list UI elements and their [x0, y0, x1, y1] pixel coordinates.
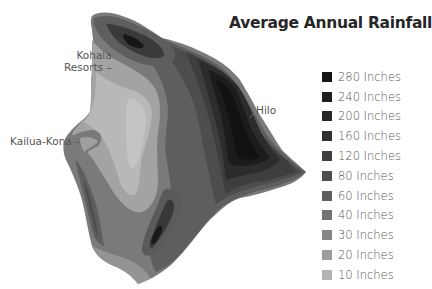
legend-item-30: 30 Inches	[322, 225, 401, 245]
legend-swatch	[322, 210, 332, 220]
legend-item-20: 20 Inches	[322, 245, 401, 265]
legend-label: 30 Inches	[338, 228, 394, 242]
legend-label: 200 Inches	[338, 109, 401, 123]
legend-label: 280 Inches	[338, 70, 401, 84]
legend-item-10: 10 Inches	[322, 265, 401, 285]
legend-swatch	[322, 230, 332, 240]
legend-item-120: 120 Inches	[322, 146, 401, 166]
legend-item-160: 160 Inches	[322, 126, 401, 146]
legend-label: 20 Inches	[338, 248, 394, 262]
legend-label: 80 Inches	[338, 169, 394, 183]
legend-swatch	[322, 92, 332, 102]
legend-swatch	[322, 250, 332, 260]
legend: 280 Inches 240 Inches 200 Inches 160 Inc…	[322, 67, 401, 285]
legend-label: 160 Inches	[338, 129, 401, 143]
legend-swatch	[322, 72, 332, 82]
legend-swatch	[322, 111, 332, 121]
legend-item-60: 60 Inches	[322, 186, 401, 206]
legend-label: 40 Inches	[338, 208, 394, 222]
legend-item-200: 200 Inches	[322, 107, 401, 127]
legend-label: 60 Inches	[338, 189, 394, 203]
legend-swatch	[322, 151, 332, 161]
legend-item-280: 280 Inches	[322, 67, 401, 87]
legend-item-40: 40 Inches	[322, 206, 401, 226]
legend-label: 240 Inches	[338, 90, 401, 104]
legend-swatch	[322, 171, 332, 181]
legend-item-240: 240 Inches	[322, 87, 401, 107]
legend-swatch	[322, 131, 332, 141]
legend-swatch	[322, 191, 332, 201]
legend-item-80: 80 Inches	[322, 166, 401, 186]
legend-label: 120 Inches	[338, 149, 401, 163]
legend-label: 10 Inches	[338, 268, 394, 282]
legend-swatch	[322, 270, 332, 280]
